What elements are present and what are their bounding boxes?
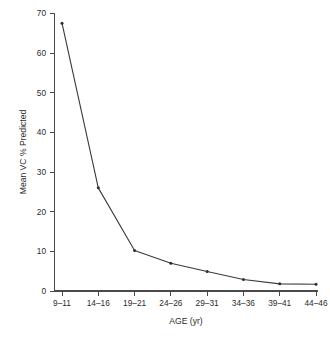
data-point [315, 283, 318, 286]
y-tick-label: 50 [37, 88, 47, 98]
y-tick-label: 20 [37, 207, 47, 217]
x-tick-label: 29–31 [196, 298, 219, 308]
x-axis-ticks [62, 291, 316, 296]
x-axis-title: AGE (yr) [169, 316, 203, 326]
data-point [278, 282, 281, 285]
y-tick-label: 30 [37, 167, 47, 177]
data-point [206, 270, 209, 273]
x-axis-tick-labels: 9–11 14–16 19–21 24–26 29–31 34–36 39–41… [53, 298, 328, 308]
data-point [169, 262, 172, 265]
data-series-markers [61, 22, 318, 286]
y-axis-ticks [50, 13, 55, 291]
data-point [97, 186, 100, 189]
x-tick-label: 34–36 [232, 298, 255, 308]
x-tick-label: 14–16 [87, 298, 110, 308]
line-chart-canvas: 0 10 20 30 40 50 60 70 9–11 14–16 19–21 … [0, 0, 330, 341]
y-tick-label: 10 [37, 246, 47, 256]
data-point [242, 278, 245, 281]
y-tick-label: 0 [41, 286, 46, 296]
x-tick-label: 19–21 [123, 298, 146, 308]
y-axis-tick-labels: 0 10 20 30 40 50 60 70 [37, 8, 47, 296]
y-tick-label: 40 [37, 127, 47, 137]
x-tick-label: 44–46 [304, 298, 327, 308]
y-tick-label: 70 [37, 8, 47, 18]
data-point [61, 22, 64, 25]
x-tick-label: 39–41 [268, 298, 291, 308]
y-tick-label: 60 [37, 48, 47, 58]
data-series-line [62, 23, 316, 284]
y-axis-title: Mean VC % Predicted [18, 110, 28, 195]
x-tick-label: 9–11 [53, 298, 71, 308]
chart-figure: 0 10 20 30 40 50 60 70 9–11 14–16 19–21 … [0, 0, 330, 341]
data-point [133, 249, 136, 252]
x-tick-label: 24–26 [159, 298, 182, 308]
